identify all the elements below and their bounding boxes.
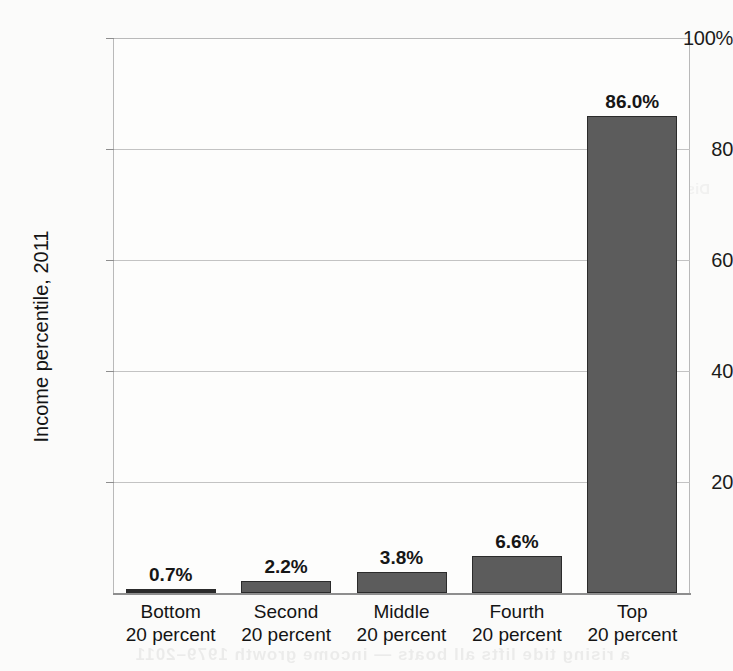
x-axis-category-label: Fourth20 percent — [472, 600, 562, 646]
x-axis-category-line2: 20 percent — [357, 623, 447, 646]
x-axis-category-label: Bottom20 percent — [126, 600, 216, 646]
x-axis-category-line1: Second — [254, 601, 318, 622]
y-tick-mark — [106, 149, 114, 150]
y-tick-mark — [106, 260, 114, 261]
x-axis-category-label: Top20 percent — [587, 600, 677, 646]
x-axis-category-line1: Bottom — [141, 601, 201, 622]
scan-bleed-artifact-bottom: a rising tide lifts all boats — income g… — [30, 645, 630, 663]
y-tick-mark — [106, 371, 114, 372]
bar[interactable] — [587, 116, 677, 593]
bar-value-label: 0.7% — [149, 564, 192, 586]
bar-value-label: 86.0% — [605, 91, 659, 113]
y-tick-mark — [106, 38, 114, 39]
x-axis-category-label: Second20 percent — [241, 600, 331, 646]
y-tick-mark — [106, 482, 114, 483]
x-axis-category-line2: 20 percent — [587, 623, 677, 646]
x-axis-category-line1: Middle — [374, 601, 430, 622]
bar[interactable] — [241, 581, 331, 593]
y-tick-label: 100% — [625, 27, 733, 50]
bar-value-label: 2.2% — [264, 556, 307, 578]
x-axis-category-line2: 20 percent — [241, 623, 331, 646]
bar[interactable] — [472, 556, 562, 593]
x-axis-line — [113, 593, 691, 595]
x-axis-category-line1: Fourth — [489, 601, 544, 622]
x-axis-category-line2: 20 percent — [472, 623, 562, 646]
x-axis-category-line2: 20 percent — [126, 623, 216, 646]
x-axis-category-line1: Top — [617, 601, 648, 622]
bar[interactable] — [357, 572, 447, 593]
bar-value-label: 3.8% — [380, 547, 423, 569]
bar-value-label: 6.6% — [495, 531, 538, 553]
bar[interactable] — [126, 589, 216, 593]
x-axis-category-label: Middle20 percent — [357, 600, 447, 646]
y-axis-title: Income percentile, 2011 — [30, 197, 53, 477]
chart-page: Distribution of income gains by househol… — [0, 0, 733, 671]
